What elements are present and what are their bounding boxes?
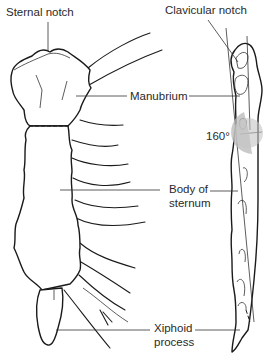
label-xiphoid-line1: Xiphoid [154, 322, 192, 335]
label-angle: 160° [206, 130, 230, 143]
rib-4 [73, 178, 130, 185]
label-body-line1: Body of [169, 183, 208, 196]
label-body-line2: sternum [169, 197, 211, 210]
rib-8 [81, 262, 130, 293]
clavicle-lower [89, 50, 162, 85]
sternum-diagram [0, 0, 278, 355]
label-sternal-notch: Sternal notch [6, 6, 74, 19]
manubrium-outline [11, 49, 91, 126]
rib-1 [80, 120, 123, 125]
rib-9 [79, 275, 125, 310]
label-xiphoid-line2: process [154, 336, 194, 349]
rib-2 [72, 140, 118, 146]
xiphoid-outline [37, 288, 63, 345]
clavicle-upper [88, 33, 150, 68]
angle-arc [233, 118, 263, 148]
label-clavicular-notch: Clavicular notch [165, 4, 247, 17]
rib-5 [75, 200, 138, 208]
rib-cartilage [64, 290, 110, 348]
rib-6 [76, 218, 145, 225]
rib-7 [80, 243, 135, 268]
leader-clavicular-notch [208, 20, 238, 62]
rib-3 [72, 158, 128, 166]
rib-10b [100, 310, 112, 325]
body-outline [14, 126, 81, 290]
lateral-view [226, 28, 263, 352]
label-manubrium: Manubrium [130, 90, 188, 103]
anterior-view [11, 33, 162, 348]
rib-10 [83, 288, 128, 322]
